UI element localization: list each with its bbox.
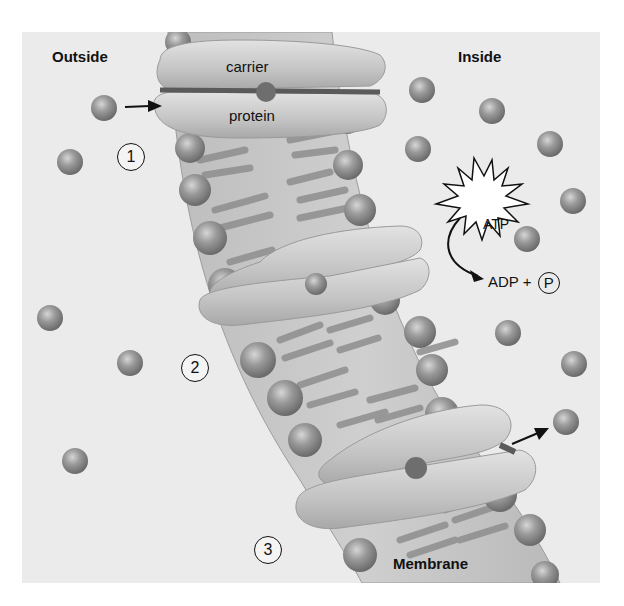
diagram-panel: Outside Inside Membrane carrier protein … bbox=[22, 32, 600, 583]
label-atp: ATP bbox=[483, 216, 509, 232]
step-3-marker: 3 bbox=[254, 536, 282, 564]
membrane-illustration bbox=[22, 32, 600, 583]
phosphate-circle-icon: P bbox=[538, 272, 560, 294]
label-carrier: carrier bbox=[226, 58, 269, 75]
label-adp-phosphate: ADP + P bbox=[488, 272, 560, 294]
label-inside: Inside bbox=[458, 48, 501, 65]
label-protein: protein bbox=[229, 107, 275, 124]
step-1-marker: 1 bbox=[117, 143, 145, 171]
label-outside: Outside bbox=[52, 48, 108, 65]
label-adp: ADP + bbox=[488, 273, 532, 290]
step-2-marker: 2 bbox=[181, 354, 209, 382]
label-membrane: Membrane bbox=[393, 555, 468, 572]
